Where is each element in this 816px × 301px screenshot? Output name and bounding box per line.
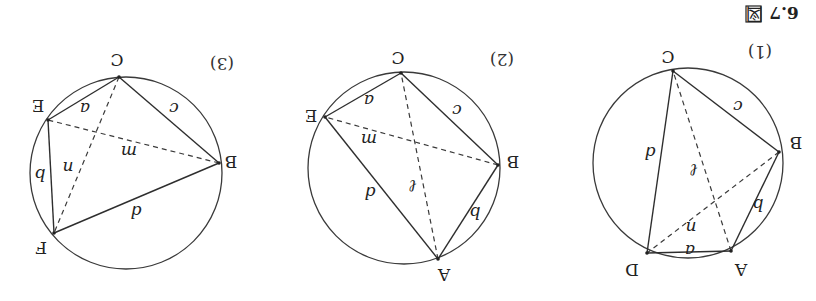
side-label-a: a	[80, 99, 90, 119]
vertex-dot	[323, 115, 327, 119]
panel-label: (1)	[748, 42, 772, 62]
panel-label: (2)	[490, 50, 514, 70]
side-label-c: c	[733, 97, 743, 117]
side-label-c: c	[169, 99, 179, 119]
side-label-b: b	[470, 203, 481, 223]
vertex-label-b: B	[507, 152, 520, 172]
side-d	[325, 117, 438, 259]
vertex-dot	[645, 251, 649, 255]
side-label-a: a	[685, 241, 695, 261]
vertex-label-c: C	[391, 48, 404, 68]
vertex-dot	[117, 75, 121, 79]
vertex-dot	[496, 163, 500, 167]
side-b	[48, 120, 54, 233]
side-label-d: d	[644, 143, 655, 163]
diagonal-l	[673, 71, 731, 251]
side-a	[325, 73, 401, 117]
caption-prefix: 図	[746, 4, 763, 24]
diagonal-l	[401, 73, 438, 259]
vertex-dot	[46, 118, 50, 122]
diagonal-label-m: m	[121, 142, 137, 162]
side-label-c: c	[452, 101, 462, 121]
panel-2: (2) C E B A a b c d ℓ m	[305, 48, 519, 285]
vertex-dot	[777, 150, 781, 154]
vertex-dot	[436, 257, 440, 261]
vertex-label-e: E	[32, 96, 44, 116]
side-label-a: a	[364, 91, 374, 111]
diagonal-label-l: ℓ	[690, 160, 697, 180]
diagonal-label-n: n	[63, 158, 74, 178]
panel-1: (1) C B A D a b c d ℓ n	[593, 42, 802, 280]
side-label-d: d	[364, 183, 375, 203]
diagonal-label-m: m	[361, 130, 377, 150]
caption-number: 6.7	[769, 3, 799, 23]
side-label-b: b	[35, 165, 46, 185]
vertex-label-c: C	[661, 47, 674, 67]
vertex-label-f: F	[35, 238, 47, 258]
panel-label: (3)	[210, 54, 234, 74]
diagonal-label-l: ℓ	[409, 176, 416, 196]
side-label-b: b	[753, 195, 764, 215]
vertex-label-a: A	[437, 265, 451, 285]
circumcircle	[30, 77, 222, 269]
vertex-dot	[52, 231, 56, 235]
vertex-label-b: B	[790, 133, 803, 153]
diagonal-label-n: n	[686, 218, 697, 238]
vertex-label-b: B	[225, 152, 238, 172]
vertex-dot	[729, 249, 733, 253]
side-c	[401, 73, 498, 165]
circumcircle	[308, 72, 500, 264]
figure-6-7: 図 6.7 (1) C B A D a b c d ℓ n	[0, 0, 816, 301]
vertex-label-a: A	[734, 260, 748, 280]
vertex-label-e: E	[305, 106, 317, 126]
vertex-dot	[399, 71, 403, 75]
vertex-label-c: C	[110, 50, 123, 70]
figure-caption: 図 6.7	[746, 3, 799, 24]
panel-3: (3) C E B F a b c d m n	[30, 50, 237, 269]
vertex-dot	[217, 161, 221, 165]
side-label-d: d	[130, 202, 141, 222]
vertex-label-d: D	[625, 260, 639, 280]
vertex-dot	[671, 69, 675, 73]
side-c	[673, 71, 779, 152]
